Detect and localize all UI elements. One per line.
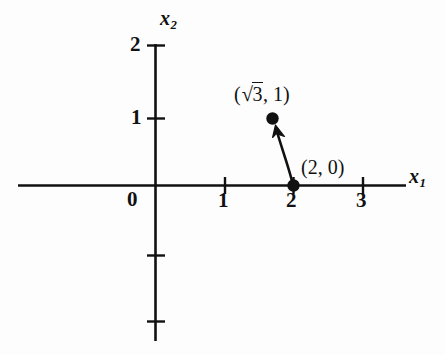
x-tick-label-1: 1 bbox=[218, 190, 229, 211]
x-axis-label-base: x bbox=[409, 165, 419, 187]
paren-open: ( bbox=[234, 83, 241, 105]
plot-canvas bbox=[0, 0, 446, 355]
rotation-arrow-shaft bbox=[277, 130, 293, 181]
coord-separator: , bbox=[263, 83, 273, 105]
radicand: 3 bbox=[252, 82, 263, 105]
x-tick-label-2: 2 bbox=[286, 190, 297, 211]
radical-group: √3 bbox=[241, 84, 263, 104]
y-axis-label: x2 bbox=[160, 8, 177, 31]
y-axis-label-base: x bbox=[160, 7, 170, 29]
y-tick-label-2: 2 bbox=[130, 34, 141, 55]
y-axis-label-subscript: 2 bbox=[171, 18, 177, 32]
x-tick-label-0: 0 bbox=[127, 189, 138, 210]
x-axis-label-subscript: 1 bbox=[420, 176, 426, 190]
coord-second: 1 bbox=[273, 83, 283, 105]
coordinate-plane-figure: x2 x1 2 1 0 1 2 3 (√3, 1) (2, 0) bbox=[0, 0, 446, 355]
paren-close: ) bbox=[283, 83, 290, 105]
x-tick-label-3: 3 bbox=[356, 190, 367, 211]
point-label-sqrt3-1: (√3, 1) bbox=[234, 84, 290, 104]
point-label-2-0: (2, 0) bbox=[301, 157, 344, 177]
x-axis-label: x1 bbox=[409, 166, 426, 189]
y-tick-label-1: 1 bbox=[131, 107, 142, 128]
data-point-sqrt3-1 bbox=[266, 112, 278, 124]
